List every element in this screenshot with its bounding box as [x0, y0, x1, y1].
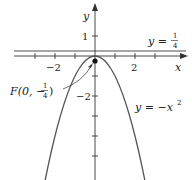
svg-text:F(0, −: F(0, − [9, 85, 45, 98]
svg-text:): ) [49, 85, 53, 98]
focus-label: F(0, − 1 4 ) [9, 82, 53, 100]
x-tick-label-2: 2 [131, 62, 137, 73]
focus-point [92, 58, 97, 63]
svg-text:y =: y = [147, 35, 167, 48]
parabola-label: y = −x 2 [134, 99, 181, 114]
y-axis-label: y [82, 10, 90, 23]
y-tick-label-neg2: −2 [76, 91, 91, 102]
svg-text:2: 2 [177, 99, 181, 107]
y-tick-label-1: 1 [82, 31, 88, 42]
focus-arrow-icon [88, 63, 93, 68]
directrix-label: y = 1 4 [147, 32, 178, 50]
parabola-graph: y x 1 −2 2 −2 y = 1 4 y = −x 2 F(0, − 1 … [0, 0, 192, 180]
y-axis-arrow-icon [92, 3, 98, 11]
svg-text:y = −x: y = −x [134, 101, 174, 114]
svg-text:1: 1 [173, 32, 177, 40]
x-axis-arrow-icon [180, 53, 188, 59]
svg-text:1: 1 [43, 82, 47, 90]
svg-text:4: 4 [173, 42, 178, 50]
svg-text:4: 4 [43, 92, 48, 100]
focus-leader-line [63, 65, 92, 89]
x-axis-label: x [175, 61, 182, 74]
x-tick-label-neg2: −2 [46, 62, 61, 73]
